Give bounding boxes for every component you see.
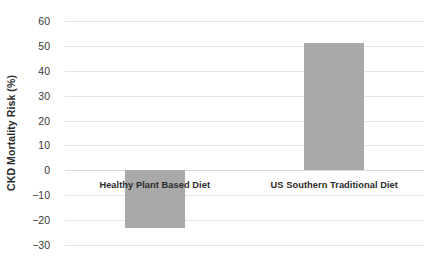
y-tick-label: −20 [4,215,50,226]
gridline-50 [65,46,424,47]
y-tick-label: −30 [4,240,50,251]
gridline--20 [65,220,424,221]
y-tick-label: 50 [4,41,50,52]
category-label: US Southern Traditional Diet [271,180,398,190]
category-label: Healthy Plant Based Diet [99,180,210,190]
y-tick-label: −10 [4,190,50,201]
gridline--30 [65,245,424,246]
plot-area: 6050403020100−10−20−30 Healthy Plant Bas… [65,21,424,245]
gridline-40 [65,71,424,72]
bar [125,170,185,227]
y-tick-label: 40 [4,66,50,77]
gridline-60 [65,21,424,22]
y-tick-label: 30 [4,90,50,101]
y-tick-label: 0 [4,165,50,176]
gridline-20 [65,121,424,122]
y-tick-label: 10 [4,140,50,151]
gridline-10 [65,145,424,146]
gridline-30 [65,96,424,97]
gridline--10 [65,195,424,196]
bar [304,43,364,170]
y-tick-label: 20 [4,115,50,126]
gridline-0 [65,170,424,171]
bar-chart: CKD Mortality Risk (%) 6050403020100−10−… [0,0,434,266]
y-tick-label: 60 [4,16,50,27]
